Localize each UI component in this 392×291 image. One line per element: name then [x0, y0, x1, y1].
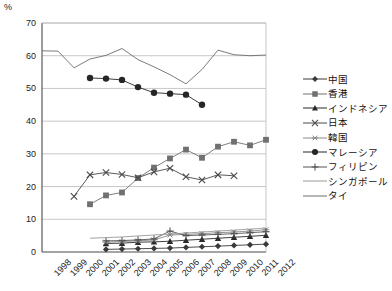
series-5	[87, 75, 205, 108]
legend-label: インドネシア	[328, 104, 388, 114]
data-point-square	[87, 201, 93, 207]
data-point-square	[312, 91, 318, 97]
data-point-diamond	[215, 243, 221, 249]
legend-item-8[interactable]: タイ	[302, 189, 392, 204]
data-point-square	[263, 137, 269, 143]
data-point-square	[215, 144, 221, 150]
legend-label: タイ	[328, 191, 348, 201]
data-point-plus	[214, 231, 221, 238]
data-point-diamond	[183, 244, 189, 250]
legend-item-2[interactable]: インドネシア	[302, 101, 392, 116]
legend-label: フィリピン	[328, 162, 378, 172]
y-tick-label: 70	[14, 18, 36, 28]
series-line	[90, 78, 202, 105]
legend-label: マレーシア	[328, 148, 378, 158]
data-point-circle	[312, 149, 318, 155]
legend-marker-triangle-icon	[302, 101, 328, 115]
data-point-diamond	[167, 245, 173, 251]
legend-marker-cross-icon	[302, 116, 328, 130]
data-point-asterisk	[312, 135, 318, 140]
data-point-circle	[87, 75, 93, 81]
data-point-circle	[135, 84, 141, 90]
legend-item-3[interactable]: 日本	[302, 116, 392, 131]
data-point-diamond	[199, 244, 205, 250]
data-point-square	[247, 142, 253, 148]
y-tick-label: 60	[14, 51, 36, 61]
data-point-diamond	[151, 245, 157, 251]
y-axis-unit-label: %	[4, 2, 12, 12]
legend-marker-none-icon	[302, 174, 328, 188]
data-point-square	[119, 190, 125, 196]
legend-label: 香港	[328, 89, 348, 99]
legend-item-5[interactable]: マレーシア	[302, 145, 392, 160]
data-point-square	[231, 139, 237, 145]
legend-item-1[interactable]: 香港	[302, 87, 392, 102]
y-tick-label: 30	[14, 149, 36, 159]
legend-marker-none-icon	[302, 189, 328, 203]
legend-label: シンガポール	[328, 177, 388, 187]
data-point-diamond	[231, 242, 237, 248]
data-point-square	[199, 155, 205, 161]
data-point-circle	[103, 75, 109, 81]
data-point-plus	[246, 229, 253, 236]
legend-label: 韓国	[328, 133, 348, 143]
legend-marker-diamond-icon	[302, 72, 328, 86]
legend-marker-plus-icon	[302, 160, 328, 174]
data-point-square	[103, 193, 109, 199]
data-point-circle	[183, 91, 189, 97]
data-point-plus	[262, 228, 269, 235]
data-point-plus	[230, 230, 237, 237]
y-tick-label: 0	[14, 247, 36, 257]
legend-marker-square-icon	[302, 87, 328, 101]
data-point-circle	[119, 77, 125, 83]
data-point-diamond	[312, 76, 318, 82]
data-point-cross	[167, 165, 173, 171]
chart-container: % 010203040506070 1998199920002001200220…	[0, 0, 392, 291]
data-point-diamond	[263, 241, 269, 247]
data-point-diamond	[119, 246, 125, 252]
series-line	[42, 49, 266, 84]
data-point-square	[167, 156, 173, 162]
data-point-diamond	[247, 242, 253, 248]
data-point-circle	[151, 89, 157, 95]
y-tick-label: 40	[14, 116, 36, 126]
chart-legend: 中国香港インドネシア日本韓国マレーシアフィリピンシンガポールタイ	[302, 72, 392, 203]
data-point-cross	[71, 193, 77, 199]
data-point-circle	[199, 102, 205, 108]
legend-item-0[interactable]: 中国	[302, 72, 392, 87]
legend-label: 中国	[328, 75, 348, 85]
series-8	[42, 49, 266, 84]
legend-item-4[interactable]: 韓国	[302, 130, 392, 145]
data-point-square	[183, 147, 189, 153]
data-point-plus	[312, 163, 319, 170]
legend-marker-asterisk-icon	[302, 131, 328, 145]
data-point-circle	[167, 90, 173, 96]
legend-marker-circle-icon	[302, 145, 328, 159]
data-point-diamond	[135, 246, 141, 252]
y-tick-label: 10	[14, 214, 36, 224]
legend-item-6[interactable]: フィリピン	[302, 160, 392, 175]
legend-label: 日本	[328, 118, 348, 128]
y-tick-label: 20	[14, 182, 36, 192]
legend-item-7[interactable]: シンガポール	[302, 174, 392, 189]
y-tick-label: 50	[14, 83, 36, 93]
